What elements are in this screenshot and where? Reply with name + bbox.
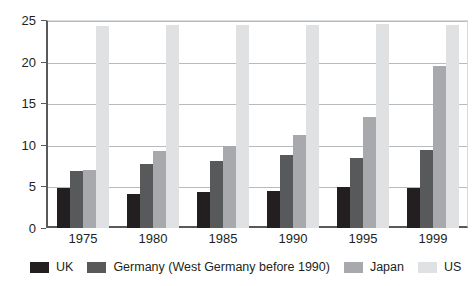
bar <box>407 188 420 228</box>
bar <box>57 188 70 228</box>
bar <box>376 24 389 228</box>
x-axis-tick-label: 1990 <box>279 231 308 246</box>
bar <box>210 161 223 228</box>
y-axis-tick-label: 10 <box>22 137 36 152</box>
x-axis-tick-label: 1985 <box>209 231 238 246</box>
bar <box>433 66 446 228</box>
legend-swatch <box>87 262 106 273</box>
bar <box>223 146 236 228</box>
bar-group <box>407 20 459 228</box>
legend-swatch <box>30 262 49 273</box>
x-axis-tick-label: 1975 <box>69 231 98 246</box>
x-axis: 197519801985199019951999 <box>48 231 468 251</box>
bar <box>350 158 363 228</box>
bar-group <box>127 20 179 228</box>
legend-item: UK <box>30 261 73 274</box>
bar <box>140 164 153 228</box>
bar <box>166 25 179 228</box>
bar <box>363 117 376 228</box>
bar <box>83 170 96 228</box>
bar <box>197 192 210 228</box>
legend-label: Japan <box>370 261 404 274</box>
bar <box>267 191 280 228</box>
bar-group <box>267 20 319 228</box>
bar <box>337 187 350 228</box>
legend-item: Japan <box>344 261 404 274</box>
bar-group <box>337 20 389 228</box>
legend-item: Germany (West Germany before 1990) <box>87 261 330 274</box>
bar <box>236 25 249 228</box>
y-axis-tick-label: 20 <box>22 54 36 69</box>
bar <box>293 135 306 228</box>
bar <box>153 151 166 228</box>
x-axis-tick-label: 1995 <box>349 231 378 246</box>
x-axis-tick-label: 1999 <box>419 231 448 246</box>
legend-item: US <box>418 261 461 274</box>
bar <box>420 150 433 228</box>
bar-groups <box>48 20 468 228</box>
y-axis-tick-label: 5 <box>29 179 36 194</box>
legend-swatch <box>344 262 363 273</box>
y-axis-tick-label: 25 <box>22 13 36 28</box>
x-axis-tick-label: 1980 <box>139 231 168 246</box>
legend-label: Germany (West Germany before 1990) <box>113 261 330 274</box>
bar-group <box>197 20 249 228</box>
legend-label: UK <box>56 261 73 274</box>
chart-legend: UKGermany (West Germany before 1990)Japa… <box>30 258 474 276</box>
bar <box>306 25 319 228</box>
bar <box>446 25 459 228</box>
bar <box>280 155 293 228</box>
legend-label: US <box>444 261 461 274</box>
bar-group <box>57 20 109 228</box>
y-axis-tick-label: 15 <box>22 96 36 111</box>
y-axis: 0510152025 <box>0 0 42 286</box>
y-axis-tick-label: 0 <box>29 221 36 236</box>
legend-swatch <box>418 262 437 273</box>
y-axis-tick <box>41 228 46 229</box>
bar <box>70 171 83 228</box>
bar-chart: 0510152025 197519801985199019951999 UKGe… <box>0 0 474 286</box>
bar <box>96 26 109 228</box>
bar <box>127 194 140 228</box>
